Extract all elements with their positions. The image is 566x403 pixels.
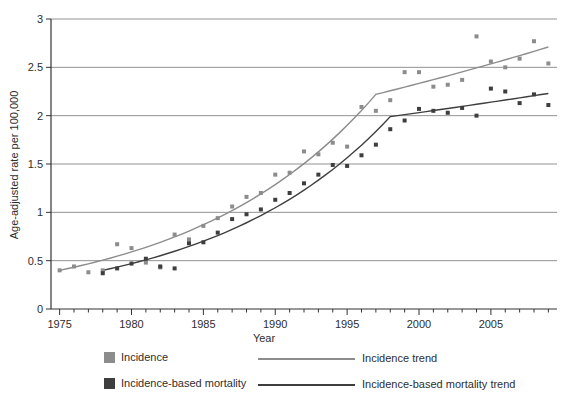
legend-label-incidence: Incidence — [121, 351, 168, 363]
svg-text:2: 2 — [37, 110, 43, 122]
svg-text:2.5: 2.5 — [28, 61, 43, 73]
svg-text:1995: 1995 — [335, 318, 359, 330]
chart-figure: 00.511.522.53197519801985199019952000200… — [0, 0, 566, 403]
incidence-swatch-icon — [104, 352, 115, 363]
legend-label-incidence-trend: Incidence trend — [362, 352, 437, 364]
svg-text:1: 1 — [37, 206, 43, 218]
svg-text:0.5: 0.5 — [28, 255, 43, 267]
svg-text:3: 3 — [37, 13, 43, 25]
legend-label-incidence-based-mortality-trend: Incidence-based mortality trend — [362, 378, 515, 390]
plot-area: 00.511.522.53197519801985199019952000200… — [0, 0, 566, 345]
svg-text:1990: 1990 — [263, 318, 287, 330]
svg-text:2005: 2005 — [479, 318, 503, 330]
x-axis-title: Year — [204, 332, 324, 344]
incidence-trend-line-icon — [258, 358, 355, 360]
incidence-based-mortality-swatch-icon — [104, 378, 115, 389]
svg-text:1.5: 1.5 — [28, 158, 43, 170]
svg-text:1975: 1975 — [47, 318, 71, 330]
svg-text:0: 0 — [37, 303, 43, 315]
svg-text:2000: 2000 — [407, 318, 431, 330]
svg-text:1985: 1985 — [191, 318, 215, 330]
svg-text:1980: 1980 — [119, 318, 143, 330]
legend-label-incidence-based-mortality: Incidence-based mortality — [121, 377, 246, 389]
incidence-based-mortality-trend-line-icon — [258, 384, 355, 386]
y-axis-title: Age-adjusted rate per 100,000 — [8, 80, 24, 250]
